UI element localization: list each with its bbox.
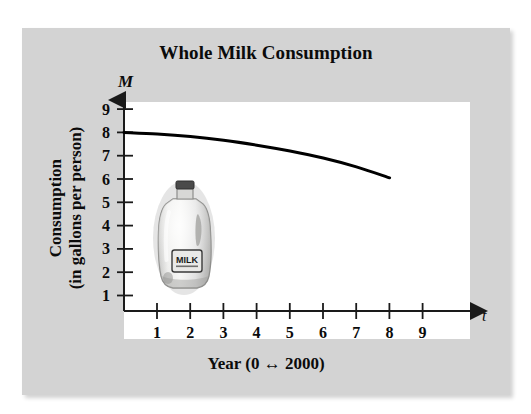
x-tick-label: 6 [313, 324, 333, 342]
x-tick-label: 3 [213, 324, 233, 342]
y-tick-label: 7 [90, 147, 110, 165]
y-tick-label: 4 [90, 217, 110, 235]
y-tick-label: 2 [90, 264, 110, 282]
y-tick-label: 6 [90, 171, 110, 189]
data-curve-whole-milk [124, 132, 390, 177]
y-tick-label: 8 [90, 124, 110, 142]
y-tick-label: 5 [90, 194, 110, 212]
figure-page: Whole Milk Consumption M t Consumption (… [0, 0, 531, 414]
x-tick-label: 5 [280, 324, 300, 342]
y-tick-label: 1 [90, 287, 110, 305]
figure-panel: Whole Milk Consumption M t Consumption (… [22, 28, 510, 395]
y-tick-label: 3 [90, 240, 110, 258]
x-tick-label: 4 [247, 324, 267, 342]
x-tick-label: 2 [180, 324, 200, 342]
x-tick-label: 9 [413, 324, 433, 342]
y-tick-label: 9 [90, 101, 110, 119]
x-tick-label: 7 [346, 324, 366, 342]
x-tick-label: 1 [147, 324, 167, 342]
x-tick-label: 8 [379, 324, 399, 342]
